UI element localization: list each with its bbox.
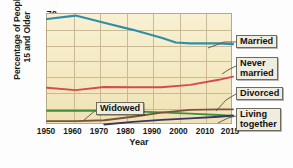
callout-married[interactable]: Married <box>236 35 277 48</box>
callout-widowed[interactable]: Widowed <box>96 102 144 115</box>
chart-figure: Percentage of People 15 and Older 70 60 … <box>0 0 293 168</box>
callout-never-married-line2: married <box>240 69 274 79</box>
callout-never-married[interactable]: Never married <box>236 57 278 80</box>
leader-widowed <box>84 110 96 120</box>
leader-divorced <box>216 94 236 111</box>
callout-leader-lines <box>0 0 293 168</box>
callout-living-together[interactable]: Living together <box>236 108 281 131</box>
leader-never-married <box>222 66 236 74</box>
callout-divorced[interactable]: Divorced <box>236 87 283 100</box>
leader-living-together <box>218 116 236 123</box>
callout-living-together-line2: together <box>240 120 277 130</box>
leader-married <box>208 42 236 48</box>
